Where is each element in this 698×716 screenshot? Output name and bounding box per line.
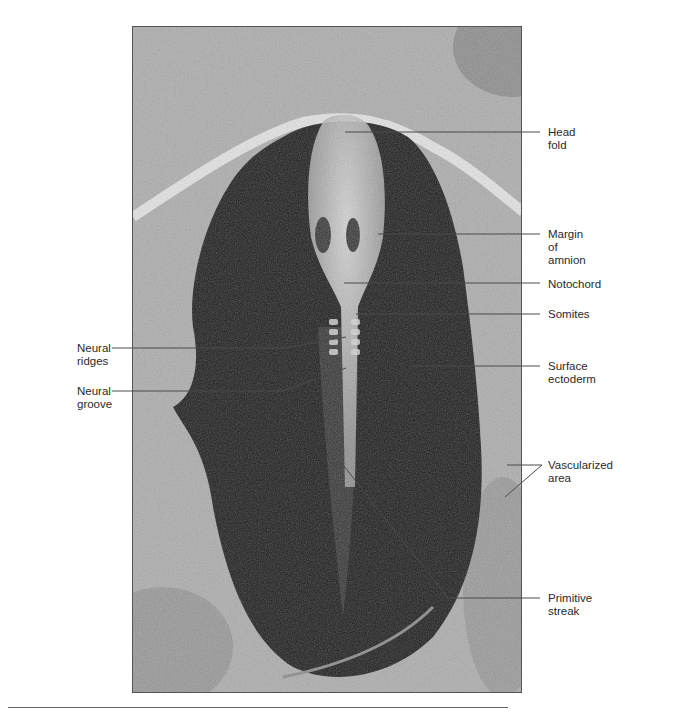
label-line: Neural	[77, 385, 112, 398]
bottom-rule	[8, 707, 508, 708]
label-line: Vascularized	[548, 459, 613, 472]
label-line: groove	[77, 398, 112, 411]
label-line: fold	[548, 139, 576, 152]
label-margin-of-amnion: Margin of amnion	[548, 228, 586, 267]
label-line: streak	[548, 605, 592, 618]
embryo-photo	[132, 26, 522, 693]
label-line: area	[548, 472, 613, 485]
label-line: Neural	[77, 342, 111, 355]
label-head-fold: Head fold	[548, 126, 576, 152]
label-neural-ridges: Neural ridges	[77, 342, 111, 368]
label-line: ectoderm	[548, 373, 596, 386]
label-line: Surface	[548, 360, 596, 373]
embryo-illustration	[133, 27, 522, 693]
label-vascularized-area: Vascularized area	[548, 459, 613, 485]
label-line: Margin	[548, 228, 586, 241]
label-line: ridges	[77, 355, 111, 368]
label-somites: Somites	[548, 308, 590, 321]
label-line: Head	[548, 126, 576, 139]
label-line: amnion	[548, 254, 586, 267]
label-neural-groove: Neural groove	[77, 385, 112, 411]
label-notochord: Notochord	[548, 278, 601, 291]
label-primitive-streak: Primitive streak	[548, 592, 592, 618]
label-surface-ectoderm: Surface ectoderm	[548, 360, 596, 386]
label-line: of	[548, 241, 586, 254]
label-line: Primitive	[548, 592, 592, 605]
